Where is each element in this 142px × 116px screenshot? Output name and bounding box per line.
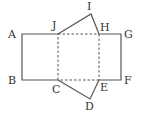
prism-net-diagram: A B J I H G C E F D	[0, 0, 142, 116]
outline-left-rect	[22, 34, 58, 80]
label-B: B	[8, 74, 16, 87]
label-J: J	[51, 19, 56, 32]
label-H: H	[100, 21, 110, 34]
outline-top-triangle	[58, 14, 99, 34]
label-C: C	[52, 83, 60, 96]
label-F: F	[124, 74, 132, 87]
label-A: A	[7, 28, 17, 41]
label-I: I	[87, 0, 91, 13]
label-G: G	[124, 28, 133, 41]
label-E: E	[100, 81, 108, 94]
outline-bottom-triangle	[58, 80, 99, 99]
outline-right-rect	[99, 34, 121, 80]
label-D: D	[85, 100, 94, 113]
